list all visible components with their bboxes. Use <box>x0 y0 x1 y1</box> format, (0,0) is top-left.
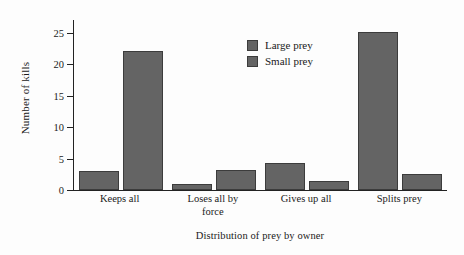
bar <box>402 174 442 190</box>
x-axis-tick-label: Keeps all <box>73 193 166 206</box>
x-axis-tick-label-line: Loses all by <box>166 193 259 206</box>
bar <box>358 32 398 190</box>
bar <box>172 184 212 190</box>
bar-chart: Number of kills 0510152025 Keeps allLose… <box>0 0 464 255</box>
legend-item: Large prey <box>247 38 313 53</box>
x-axis-tick-label: Gives up all <box>260 193 353 206</box>
legend-label: Large prey <box>265 39 313 52</box>
x-axis-tick-label-line: Gives up all <box>260 193 353 206</box>
bar <box>123 51 163 190</box>
chart-legend: Large preySmall prey <box>247 38 313 70</box>
x-axis-tick-label: Loses all byforce <box>166 193 259 218</box>
y-axis-tick-mark <box>67 127 73 128</box>
y-axis-title: Number of kills <box>14 3 36 193</box>
y-axis-tick-mark <box>67 33 73 34</box>
legend-item: Small prey <box>247 54 313 69</box>
bar <box>79 171 119 190</box>
x-axis-tick-label-line: force <box>166 206 259 219</box>
y-axis-tick-mark <box>67 64 73 65</box>
x-axis-line <box>73 190 447 191</box>
legend-label: Small prey <box>265 55 313 68</box>
y-axis-tick-label: 5 <box>59 153 64 164</box>
y-axis-tick-label: 15 <box>54 90 65 101</box>
bar <box>216 170 256 190</box>
y-axis-tick-mark <box>67 159 73 160</box>
legend-swatch-icon <box>247 40 258 51</box>
bar <box>309 181 349 190</box>
y-axis-tick-label: 20 <box>54 59 65 70</box>
y-axis-tick-mark <box>67 96 73 97</box>
bar <box>265 163 305 190</box>
legend-swatch-icon <box>247 56 258 67</box>
x-axis-tick-labels: Keeps allLoses all byforceGives up allSp… <box>73 193 447 227</box>
x-axis-tick-label: Splits prey <box>353 193 446 206</box>
y-axis-tick-label: 25 <box>54 27 65 38</box>
x-axis-title: Distribution of prey by owner <box>73 230 447 241</box>
x-axis-tick-label-line: Keeps all <box>73 193 166 206</box>
x-axis-tick-label-line: Splits prey <box>353 193 446 206</box>
y-axis-tick-label: 10 <box>54 122 65 133</box>
y-axis-tick-label: 0 <box>59 185 64 196</box>
y-axis-tick-mark <box>67 190 73 191</box>
